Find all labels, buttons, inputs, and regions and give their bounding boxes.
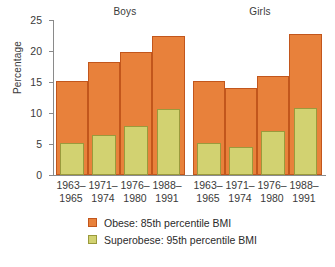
y-tick-5: 5 (49, 144, 53, 145)
bar-superobese-boys-1963-1965[interactable] (60, 143, 83, 175)
legend-item-obese[interactable]: Obese: 85th percentile BMI (88, 214, 257, 231)
legend-swatch-obese-icon (88, 218, 97, 227)
x-axis-line (53, 175, 326, 176)
legend-label-superobese: Superobese: 95th percentile BMI (104, 234, 257, 246)
x-tick-line-1: 1988– (273, 179, 335, 192)
y-tick-label-15: 15 (30, 76, 42, 88)
y-tick-label-10: 10 (30, 107, 42, 119)
y-tick-15: 15 (49, 82, 53, 83)
legend-label-obese: Obese: 85th percentile BMI (104, 217, 231, 229)
bar-superobese-boys-1971-1974[interactable] (92, 135, 115, 175)
bar-superobese-girls-1963-1965[interactable] (197, 143, 220, 175)
bar-superobese-girls-1976-1980[interactable] (261, 131, 284, 175)
bar-superobese-girls-1971-1974[interactable] (229, 147, 252, 176)
y-tick-25: 25 (49, 20, 53, 21)
y-tick-label-20: 20 (30, 45, 42, 57)
bar-pair-girls-1971-1974[interactable] (225, 20, 257, 175)
bar-pair-girls-1976-1980[interactable] (257, 20, 289, 175)
bar-superobese-girls-1988-1991[interactable] (294, 108, 318, 175)
y-tick-label-5: 5 (36, 138, 42, 150)
bar-pair-boys-1963-1965[interactable] (56, 20, 88, 175)
legend-swatch-superobese-icon (88, 235, 97, 244)
bar-superobese-boys-1976-1980[interactable] (124, 126, 147, 175)
group-title-boys: Boys (79, 6, 171, 17)
y-tick-20: 20 (49, 51, 53, 52)
chart-legend: Obese: 85th percentile BMI Superobese: 9… (88, 214, 257, 248)
bar-pair-girls-1963-1965[interactable] (193, 20, 225, 175)
y-tick-10: 10 (49, 113, 53, 114)
bar-group-boys (56, 20, 185, 175)
x-tick-label-girls-1988-1991: 1988– 1991 (273, 179, 335, 204)
chart-figure: Boys Girls Percentage 0 5 10 15 20 25 (0, 0, 335, 267)
y-tick-0: 0 (49, 175, 53, 176)
bar-pair-boys-1988-1991[interactable] (152, 20, 185, 175)
bar-pair-girls-1988-1991[interactable] (289, 20, 322, 175)
legend-item-superobese[interactable]: Superobese: 95th percentile BMI (88, 231, 257, 248)
y-axis-line (53, 20, 54, 175)
y-tick-label-25: 25 (30, 14, 42, 26)
x-tick-line-2: 1991 (273, 192, 335, 205)
bar-superobese-boys-1988-1991[interactable] (157, 109, 181, 175)
plot-area: 0 5 10 15 20 25 (53, 20, 326, 175)
bar-pair-boys-1971-1974[interactable] (88, 20, 120, 175)
y-axis-label: Percentage (12, 8, 23, 128)
group-title-girls: Girls (214, 6, 306, 17)
bar-group-girls (193, 20, 322, 175)
bar-pair-boys-1976-1980[interactable] (120, 20, 152, 175)
